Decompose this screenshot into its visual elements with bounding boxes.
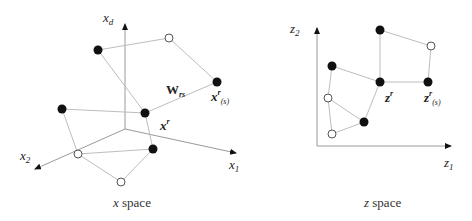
z2-axis-label: z2	[289, 21, 300, 38]
x2-axis-label: x2	[19, 148, 31, 165]
node-filled	[328, 62, 337, 71]
node-zr	[376, 78, 385, 87]
node-zrs	[424, 78, 433, 87]
xrs-label: xr(s)	[210, 88, 229, 106]
node-xr	[141, 109, 150, 118]
node-filled	[94, 46, 103, 55]
node-hollow	[165, 34, 173, 42]
x-space-caption: x space	[112, 195, 151, 210]
weight-label: Wrs	[166, 82, 185, 99]
diagram-canvas: xd x1 x2 Wrs xr xr(s) x space	[0, 0, 472, 221]
xr-label: xr	[159, 117, 171, 133]
node-hollow	[427, 42, 435, 50]
x1-axis-label: x1	[228, 157, 239, 174]
node-filled	[360, 118, 369, 127]
z1-axis-label: z1	[443, 155, 454, 172]
x-space-edges	[62, 38, 217, 182]
node-filled	[376, 26, 385, 35]
z-space-panel: z2 z1 zr zr(s) z space	[289, 21, 454, 210]
zrs-label: zr(s)	[423, 89, 441, 107]
x-space-panel: xd x1 x2 Wrs xr xr(s) x space	[19, 10, 239, 210]
node-hollow	[324, 94, 332, 102]
xd-axis-label: xd	[102, 10, 114, 27]
node-hollow	[328, 130, 336, 138]
x2-axis	[35, 129, 125, 169]
node-filled	[149, 145, 158, 154]
node-xrs	[213, 78, 222, 87]
node-hollow	[74, 150, 82, 158]
node-filled	[58, 105, 67, 114]
zr-label: zr	[384, 89, 394, 105]
node-hollow	[117, 178, 125, 186]
z-space-caption: z space	[363, 195, 401, 210]
